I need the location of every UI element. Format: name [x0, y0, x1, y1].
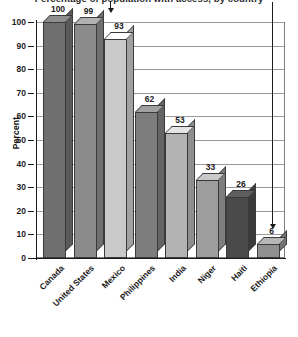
y-axis-line [36, 20, 37, 260]
x-tick-label-text: India [166, 263, 187, 284]
y-tick-label: 100 [0, 17, 26, 27]
bar-united-states: 99 [74, 24, 97, 258]
x-tick-label-text: Haiti [228, 263, 248, 283]
bar-face [74, 24, 97, 258]
x-tick-label-text: Ethiopia [248, 263, 279, 294]
x-tick-label-text: Niger [196, 263, 218, 285]
bar-canada: 100 [43, 22, 66, 258]
bar-face [43, 22, 66, 258]
y-tick-label: 20 [0, 206, 26, 216]
arrow-head [108, 8, 114, 13]
x-tick-label-text: Mexico [99, 263, 126, 290]
bar-side [66, 8, 73, 251]
bar-philippines: 62 [135, 112, 158, 258]
y-tick-mark [28, 164, 34, 165]
y-tick-mark [28, 116, 34, 117]
y-tick-mark [28, 187, 34, 188]
y-axis-title: Percent [11, 103, 21, 163]
bar-value-label: 26 [236, 179, 245, 189]
bar-niger: 33 [196, 180, 219, 258]
bar-side [188, 119, 195, 251]
y-tick-mark [28, 140, 34, 141]
y-tick-mark [28, 22, 34, 23]
bar-side [97, 10, 104, 251]
bar-value-label: 53 [175, 115, 184, 125]
bar-value-label: 62 [145, 94, 154, 104]
y-tick-label: 0 [0, 253, 26, 263]
y-tick-mark [28, 69, 34, 70]
chart-title: Percentage of population with access, by… [35, 0, 264, 4]
bar-face [196, 180, 219, 258]
y-tick-mark [28, 46, 34, 47]
bar-value-label: 93 [114, 21, 123, 31]
y-tick-label: 90 [0, 41, 26, 51]
bar-haiti: 26 [226, 197, 249, 258]
y-tick-label: 80 [0, 64, 26, 74]
chart-title-strip: Percentage of population with access, by… [0, 0, 298, 9]
arrow-shaft [272, 2, 273, 228]
y-tick-label: 70 [0, 88, 26, 98]
bar-side [127, 25, 134, 251]
arrow-head [270, 224, 276, 229]
y-tick-mark [28, 258, 34, 259]
bar-value-label: 100 [51, 4, 65, 14]
y-tick-mark [28, 211, 34, 212]
y-tick-label: 10 [0, 229, 26, 239]
bar-face [135, 112, 158, 258]
bar-face [226, 197, 249, 258]
x-tick-label-text: Canada [37, 263, 66, 292]
y-axis-ticks: 1009080706050403020100 [0, 0, 36, 337]
y-tick-mark [28, 93, 34, 94]
y-tick-mark [28, 234, 34, 235]
bar-side [158, 98, 165, 251]
bar-value-label: 33 [206, 162, 215, 172]
bar-face [104, 39, 127, 258]
bar-mexico: 93 [104, 39, 127, 258]
y-tick-label: 30 [0, 182, 26, 192]
bar-chart: Percentage of population with access, by… [0, 0, 298, 337]
bar-value-label: 99 [84, 6, 93, 16]
